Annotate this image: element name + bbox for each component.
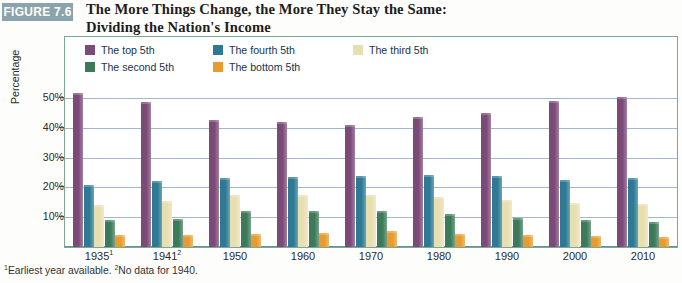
bar[interactable] — [387, 231, 397, 247]
legend-swatch-icon — [213, 45, 223, 55]
x-axis-tick-label: 2000 — [563, 250, 587, 262]
bar-group-2000 — [549, 83, 601, 247]
bar-top-highlight — [366, 195, 376, 197]
bar-top-highlight — [617, 97, 627, 99]
bar[interactable] — [173, 219, 183, 247]
bar[interactable] — [84, 185, 94, 247]
x-axis-tick-label: 19351 — [85, 250, 113, 262]
bar[interactable] — [230, 195, 240, 247]
bar[interactable] — [288, 177, 298, 247]
bar-top-highlight — [445, 214, 455, 216]
bar-top-highlight — [84, 185, 94, 187]
bar[interactable] — [251, 234, 261, 247]
bar-top-highlight — [277, 122, 287, 124]
bar[interactable] — [617, 97, 627, 247]
bar-group-1960 — [277, 83, 329, 247]
bar-top-highlight — [220, 178, 230, 180]
bar-groups — [65, 83, 677, 247]
bar[interactable] — [628, 178, 638, 247]
bar-group-1950 — [209, 83, 261, 247]
legend-item-fourth-5th: The fourth 5th — [213, 42, 353, 57]
bar-top-highlight — [481, 113, 491, 115]
bar[interactable] — [241, 211, 251, 247]
bar[interactable] — [591, 236, 601, 247]
bar[interactable] — [319, 233, 329, 247]
bar[interactable] — [152, 181, 162, 247]
x-axis-tick-label: 1950 — [223, 250, 247, 262]
bar[interactable] — [73, 93, 83, 247]
bar-top-highlight — [288, 177, 298, 179]
legend-label: The third 5th — [369, 44, 428, 56]
bar[interactable] — [481, 113, 491, 247]
legend-column-1: The top 5th The second 5th — [85, 42, 213, 74]
bar[interactable] — [105, 220, 115, 247]
footnote-text-2: No data for 1940. — [118, 265, 198, 276]
y-axis-tick-label: 20% — [24, 180, 64, 192]
bar-top-highlight — [356, 176, 366, 178]
bar[interactable] — [345, 125, 355, 247]
x-axis-labels: 19351194121950196019701980199020002010 — [64, 250, 678, 266]
x-axis-tick-label: 1970 — [359, 250, 383, 262]
bar[interactable] — [162, 201, 172, 247]
bar[interactable] — [356, 176, 366, 247]
y-axis-tick-label: 10% — [24, 210, 64, 222]
bar-group-1980 — [413, 83, 465, 247]
x-axis-tick-label: 1990 — [495, 250, 519, 262]
figure-title-line-1: The More Things Change, the More They St… — [86, 1, 447, 17]
bar[interactable] — [141, 102, 151, 248]
bar[interactable] — [298, 195, 308, 247]
bar-top-highlight — [560, 180, 570, 182]
bar[interactable] — [183, 235, 193, 247]
legend-item-top-5th: The top 5th — [85, 42, 213, 57]
bar[interactable] — [513, 218, 523, 247]
bar[interactable] — [424, 175, 434, 247]
bar-group-1990 — [481, 83, 533, 247]
legend-label: The top 5th — [101, 44, 155, 56]
bar[interactable] — [377, 211, 387, 247]
bar[interactable] — [366, 195, 376, 247]
bar[interactable] — [581, 220, 591, 247]
bar-top-highlight — [387, 231, 397, 233]
page-title: The More Things Change, the More They St… — [86, 1, 646, 37]
bar-top-highlight — [105, 220, 115, 222]
bar[interactable] — [455, 234, 465, 247]
bar-top-highlight — [94, 205, 104, 207]
bar[interactable] — [413, 117, 423, 247]
bar[interactable] — [209, 120, 219, 247]
bar[interactable] — [115, 235, 125, 247]
bar[interactable] — [492, 176, 502, 247]
bar-group-1941 — [141, 83, 193, 247]
bar-top-highlight — [649, 222, 659, 224]
bar[interactable] — [434, 197, 444, 247]
y-axis-title: Percentage — [9, 50, 21, 104]
bar[interactable] — [502, 200, 512, 247]
bar[interactable] — [220, 178, 230, 247]
bar[interactable] — [560, 180, 570, 247]
bar[interactable] — [309, 211, 319, 247]
bar[interactable] — [277, 122, 287, 247]
chart-legend: The top 5th The second 5th The fourth 5t… — [85, 42, 505, 74]
bar[interactable] — [94, 205, 104, 247]
bar-top-highlight — [73, 93, 83, 95]
bar[interactable] — [570, 203, 580, 247]
bar-top-highlight — [309, 211, 319, 213]
legend-swatch-icon — [213, 62, 223, 72]
legend-swatch-icon — [85, 62, 95, 72]
bar-top-highlight — [319, 233, 329, 235]
bar[interactable] — [659, 237, 669, 247]
bar-top-highlight — [502, 200, 512, 202]
figure-header: FIGURE 7.6 The More Things Change, the M… — [0, 0, 682, 40]
bar[interactable] — [549, 101, 559, 247]
bar-top-highlight — [455, 234, 465, 236]
bar[interactable] — [638, 204, 648, 247]
bar[interactable] — [649, 222, 659, 247]
bar-top-highlight — [492, 176, 502, 178]
bar-top-highlight — [523, 235, 533, 237]
bar-top-highlight — [141, 102, 151, 104]
legend-swatch-icon — [85, 45, 95, 55]
chart-frame: The top 5th The second 5th The fourth 5t… — [64, 36, 678, 248]
bar[interactable] — [523, 235, 533, 247]
bar[interactable] — [445, 214, 455, 247]
figure-title-line-2: Dividing the Nation's Income — [86, 19, 646, 37]
figure-number-badge: FIGURE 7.6 — [2, 3, 73, 21]
